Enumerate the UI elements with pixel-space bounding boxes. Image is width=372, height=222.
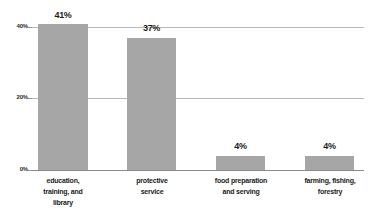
y-tick-mark-0 <box>28 170 32 171</box>
category-label-line: education, <box>24 175 102 186</box>
y-tick-label-40: 40% <box>2 23 28 30</box>
category-label-line: protective <box>113 175 191 186</box>
category-label: protective service <box>113 175 191 197</box>
category-label: food preparation and serving <box>200 175 282 197</box>
category-label: education, training, and library <box>24 175 102 208</box>
y-tick-label-20: 20% <box>2 94 28 101</box>
category-label-line: and serving <box>200 186 282 197</box>
bar-chart: 40% 20% 0% 41% 37% 4% 4% education, trai… <box>0 0 372 222</box>
y-tick-mark-40 <box>28 27 32 28</box>
bar-food-preparation-and-serving <box>216 156 265 170</box>
category-label-line: farming, fishing, <box>290 175 370 186</box>
bar-value-label: 4% <box>305 141 354 151</box>
bar-value-label: 37% <box>127 23 176 33</box>
bar-value-label: 4% <box>216 141 265 151</box>
category-label-line: training, and <box>24 186 102 197</box>
x-axis-baseline <box>30 170 364 171</box>
bar-education-training-library <box>38 24 88 170</box>
category-label: farming, fishing, forestry <box>290 175 370 197</box>
category-label-line: food preparation <box>200 175 282 186</box>
category-label-line: service <box>113 186 191 197</box>
plot-area: 40% 20% 0% 41% 37% 4% 4% education, trai… <box>0 0 372 222</box>
category-label-line: forestry <box>290 186 370 197</box>
y-tick-mark-20 <box>28 98 32 99</box>
bar-value-label: 41% <box>38 10 88 20</box>
bar-protective-service <box>127 38 176 170</box>
y-tick-label-0: 0% <box>2 166 28 173</box>
bar-farming-fishing-forestry <box>305 156 354 170</box>
category-label-line: library <box>24 197 102 208</box>
